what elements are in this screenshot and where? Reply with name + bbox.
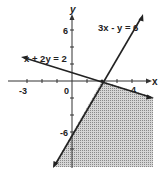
intersection-point — [100, 79, 103, 82]
inequality-graph: y x 3x - y = 6 x + 2y = 2 -3 0 4 6 -6 — [0, 0, 164, 173]
tick-label-x-0: 0 — [64, 86, 69, 96]
tick-label-y-6: 6 — [63, 26, 68, 36]
x-axis-label: x — [152, 76, 158, 87]
line1-label: 3x - y = 6 — [98, 22, 138, 33]
y-axis-label: y — [69, 4, 76, 15]
tick-label-y-neg6: -6 — [60, 128, 68, 138]
line2-label: x + 2y = 2 — [24, 53, 67, 64]
tick-label-x-4: 4 — [131, 85, 136, 95]
tick-label-x-neg3: -3 — [19, 86, 27, 96]
